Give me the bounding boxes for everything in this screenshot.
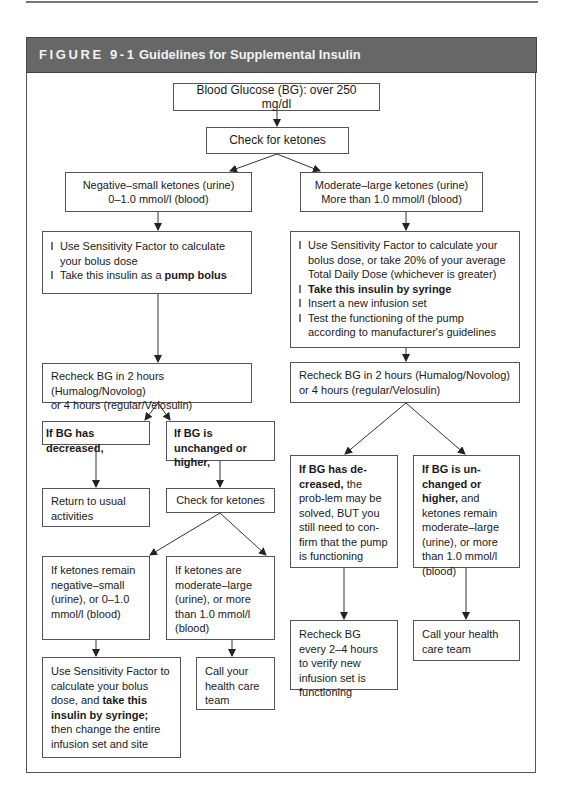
check-ketones-node: Check for ketones — [206, 127, 349, 154]
right-recheck-node: Recheck BG in 2 hours (Humalog/Novolog) … — [290, 362, 520, 403]
bullet-pump-bolus-bold: pump bolus — [165, 269, 227, 281]
left-decreased-text: If BG has decreased, — [46, 427, 103, 454]
right-unchanged-rest: and ketones remain moderate–large (urine… — [422, 492, 499, 577]
moderate-large-node: Moderate–large ketones (urine) More than… — [300, 172, 483, 212]
check-ketones-2-node: Check for ketones — [166, 488, 275, 513]
start-node: Blood Glucose (BG): over 250 mg/dl — [173, 83, 380, 111]
bullet-test-pump: Test the functioning of the pump accordi… — [299, 311, 511, 340]
check-ketones-2-text: Check for ketones — [176, 493, 265, 508]
left-decreased-node: If BG has decreased, — [42, 421, 150, 445]
bullet-syringe: Take this insulin by syringe — [299, 282, 511, 297]
bullet-sensitivity-or-20pct: Use Sensitivity Factor to calculate your… — [299, 238, 511, 282]
bullet-syringe-bold: Take this insulin by syringe — [308, 283, 451, 295]
ketones-neg-small-node: If ketones remain negative–small (urine)… — [42, 556, 150, 640]
moderate-large-line1: Moderate–large ketones (urine) — [315, 178, 468, 193]
start-node-text: Blood Glucose (BG): over 250 mg/dl — [182, 83, 371, 112]
ketones-mod-large-text: If ketones are moderate–large (urine), o… — [175, 564, 252, 634]
syringe-action-node: Use Sensitivity Factor to calculate your… — [290, 231, 520, 348]
left-recheck-line1: Recheck BG in 2 hours (Humalog/Novolog) — [51, 369, 243, 398]
left-recheck-line2: or 4 hours (regular/Velosulin) — [51, 398, 243, 413]
right-recheck-line2: or 4 hours (regular/Velosulin) — [299, 383, 511, 398]
bullet-new-infusion-set: Insert a new infusion set — [299, 296, 511, 311]
moderate-large-line2: More than 1.0 mmol/l (blood) — [321, 192, 462, 207]
right-unchanged-node: If BG is un-changed or higher, and keton… — [413, 455, 520, 568]
ketones-mod-large-node: If ketones are moderate–large (urine), o… — [166, 556, 275, 640]
negative-small-line1: Negative–small ketones (urine) — [83, 178, 235, 193]
recheck-every-text: Recheck BG every 2–4 hours to verify new… — [299, 628, 378, 698]
negative-small-node: Negative–small ketones (urine) 0–1.0 mmo… — [65, 172, 252, 212]
call-team-right-node: Call your health care team — [413, 620, 520, 661]
call-team-left-text: Call your health care team — [205, 665, 259, 706]
use-sf-suffix: then change the entire infusion set and … — [51, 723, 160, 750]
bullet-pump-bolus-prefix: Take this insulin as a — [60, 269, 165, 281]
right-recheck-line1: Recheck BG in 2 hours (Humalog/Novolog) — [299, 368, 511, 383]
negative-small-line2: 0–1.0 mmol/l (blood) — [108, 192, 208, 207]
return-usual-text: Return to usual activities — [51, 495, 126, 522]
call-team-left-node: Call your health care team — [196, 657, 275, 710]
left-unchanged-node: If BG is unchanged or higher, — [166, 421, 275, 461]
right-decreased-rest: the prob-lem may be solved, BUT you stil… — [299, 478, 388, 563]
bullet-sensitivity-factor: Use Sensitivity Factor to calculate your… — [51, 239, 243, 268]
pump-bolus-action-node: Use Sensitivity Factor to calculate your… — [42, 231, 252, 294]
left-recheck-node: Recheck BG in 2 hours (Humalog/Novolog) … — [42, 363, 252, 403]
recheck-every-node: Recheck BG every 2–4 hours to verify new… — [290, 620, 398, 690]
call-team-right-text: Call your health care team — [422, 628, 498, 655]
check-ketones-text: Check for ketones — [229, 133, 326, 148]
use-sf-syringe-node: Use Sensitivity Factor to calculate your… — [42, 657, 181, 758]
ketones-neg-small-text: If ketones remain negative–small (urine)… — [51, 564, 135, 620]
bullet-pump-bolus: Take this insulin as a pump bolus — [51, 268, 243, 283]
return-usual-node: Return to usual activities — [42, 488, 150, 527]
right-decreased-node: If BG has de-creased, the prob-lem may b… — [290, 455, 398, 568]
